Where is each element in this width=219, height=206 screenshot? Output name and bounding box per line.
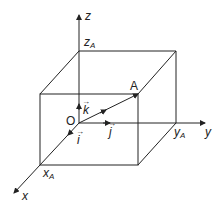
unit-vector-j-label: →j <box>109 126 112 138</box>
unit-vector-i-label: →i <box>77 134 80 146</box>
yA-label: yA <box>174 126 185 140</box>
box-drawing <box>0 0 219 206</box>
diagram-canvas: z y x A O zA yA xA →k →j →i <box>0 0 219 206</box>
point-A-label: A <box>130 80 138 92</box>
unit-vector-k-label: →k <box>83 104 89 116</box>
origin-label: O <box>66 115 75 127</box>
z-axis-label: z <box>85 10 91 22</box>
xA-label: xA <box>43 167 54 181</box>
zA-label: zA <box>84 36 95 50</box>
y-axis-label: y <box>205 126 211 138</box>
x-axis-label: x <box>22 190 28 202</box>
